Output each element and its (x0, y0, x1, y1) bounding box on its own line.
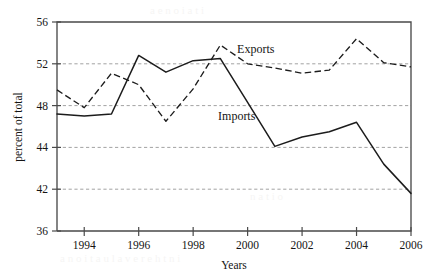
y-tick-label: 56 (37, 16, 49, 28)
x-tick-label: 2002 (291, 239, 314, 251)
line-chart: a e n o i a t i a n o i t a u l a v e r … (0, 0, 423, 276)
series-line-imports (57, 55, 411, 193)
svg-text:n a t i o: n a t i o (250, 190, 283, 202)
series-label-exports: Exports (237, 42, 275, 56)
x-axis-title: Years (221, 259, 247, 271)
y-tick-label: 36 (37, 225, 49, 237)
series-label-imports: Imports (218, 109, 256, 123)
y-tick-label: 48 (37, 100, 49, 112)
y-axis-title: percent of total (12, 92, 25, 162)
y-tick-label: 52 (37, 58, 49, 70)
x-tick-label: 1994 (73, 239, 96, 251)
chart-container: a e n o i a t i a n o i t a u l a v e r … (0, 0, 423, 276)
plot-area: 5652484442361994199619982000200220042006… (37, 16, 423, 251)
y-tick-label: 44 (37, 141, 49, 153)
plot-frame (57, 22, 411, 231)
x-tick-label: 2000 (236, 239, 259, 251)
x-tick-label: 1996 (127, 239, 150, 251)
x-tick-label: 2006 (400, 239, 423, 251)
y-tick-label: 42 (37, 183, 49, 195)
x-tick-label: 2004 (345, 239, 368, 251)
x-tick-label: 1998 (182, 239, 205, 251)
svg-text:a n o i t a u l a v: a n o i t a u l a v e r e h t n i (60, 252, 180, 264)
svg-text:a e n o i a t i: a e n o i a t i (150, 4, 204, 16)
